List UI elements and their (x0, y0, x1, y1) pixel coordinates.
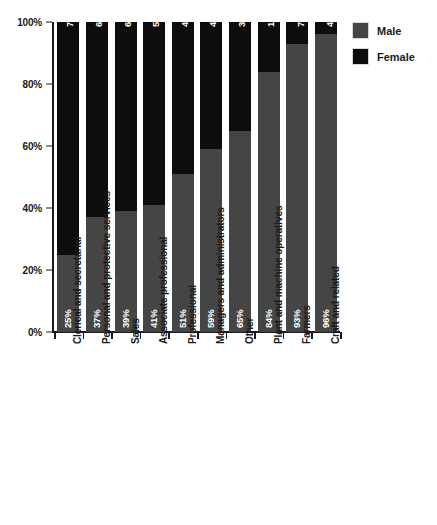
bar-segment-male[interactable]: 39% (115, 211, 137, 332)
bar-stack: 35%65% (229, 22, 251, 332)
x-axis-tick-mark (83, 332, 85, 339)
legend-label: Female (377, 51, 415, 63)
bar-column[interactable]: 35%65% (229, 22, 251, 332)
y-axis: 0%20%40%60%80%100% (0, 0, 48, 525)
bar-value-label: 63% (93, 22, 104, 27)
bar-value-label: 59% (150, 22, 161, 27)
bar-segment-female[interactable]: 35% (229, 22, 251, 131)
bar-segment-female[interactable]: 49% (172, 22, 194, 174)
bar-segment-female[interactable]: 63% (86, 22, 108, 217)
x-axis-category-label[interactable]: Associate professional (158, 237, 169, 344)
bar-value-label: 16% (264, 22, 275, 27)
chart-legend: MaleFemale (352, 22, 434, 74)
bar-column[interactable]: 61%39% (115, 22, 137, 332)
x-axis-category-label[interactable]: Clerical and secretarial (72, 237, 83, 344)
y-axis-tick-label: 60% (23, 141, 42, 152)
legend-color-swatch (352, 22, 369, 39)
x-axis-tick-mark (54, 332, 56, 339)
bar-value-label: 49% (178, 22, 189, 27)
y-axis-tick-label: 20% (23, 265, 42, 276)
legend-item[interactable]: Male (352, 22, 434, 39)
bar-stack: 61%39% (115, 22, 137, 332)
bar-stack: 7%93% (286, 22, 308, 332)
x-axis-tick-mark (340, 332, 342, 339)
bar-column[interactable]: 7%93% (286, 22, 308, 332)
bar-segment-female[interactable]: 41% (200, 22, 222, 149)
x-axis-tick-mark (140, 332, 142, 339)
bar-segment-female[interactable]: 4% (315, 22, 337, 34)
x-axis-tick-mark (283, 332, 285, 339)
x-axis-category-label[interactable]: Plant and machine operatives (273, 206, 284, 344)
x-axis-tick-mark (226, 332, 228, 339)
bar-segment-female[interactable]: 75% (57, 22, 79, 255)
x-axis-tick-mark (168, 332, 170, 339)
bar-segment-female[interactable]: 16% (258, 22, 280, 72)
bar-value-label: 75% (64, 22, 75, 27)
x-axis-category-label[interactable]: Managers and administrators (215, 207, 226, 344)
x-axis-tick-mark (197, 332, 199, 339)
bar-segment-male[interactable]: 93% (286, 44, 308, 332)
x-axis-tick-mark (254, 332, 256, 339)
bar-segment-female[interactable]: 7% (286, 22, 308, 44)
legend-item[interactable]: Female (352, 48, 434, 65)
bar-value-label: 4% (324, 22, 335, 27)
legend-color-swatch (352, 48, 369, 65)
y-axis-tick-label: 0% (28, 327, 42, 338)
bar-value-label: 39% (120, 310, 131, 328)
bar-segment-male[interactable]: 65% (229, 131, 251, 333)
y-axis-tick-label: 40% (23, 203, 42, 214)
bar-segment-female[interactable]: 59% (143, 22, 165, 205)
bar-value-label: 84% (263, 310, 274, 328)
bar-value-label: 7% (295, 22, 306, 27)
x-axis-tick-mark (311, 332, 313, 339)
bar-value-label: 61% (121, 22, 132, 27)
bar-segment-female[interactable]: 61% (115, 22, 137, 211)
x-axis-category-label[interactable]: Other (244, 318, 255, 344)
x-axis-tick-mark (111, 332, 113, 339)
bar-value-label: 41% (207, 22, 218, 27)
y-axis-tick-label: 100% (17, 17, 42, 28)
x-axis-category-label[interactable]: Personal and protective services (101, 191, 112, 344)
y-axis-tick-label: 80% (23, 79, 42, 90)
stacked-bar-chart: 0%20%40%60%80%100% 75%25%63%37%61%39%59%… (0, 0, 437, 525)
bar-value-label: 35% (236, 22, 247, 27)
legend-label: Male (377, 25, 401, 37)
